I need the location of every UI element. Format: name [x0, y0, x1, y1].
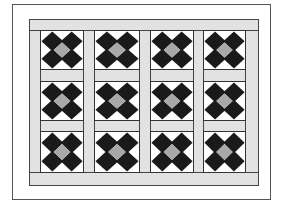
quilt-block	[94, 81, 140, 121]
quilt-block	[203, 81, 246, 121]
quilt-block	[150, 131, 194, 173]
quilt-block	[40, 30, 84, 70]
quilt-block	[150, 30, 194, 70]
quilt-block	[40, 81, 84, 121]
quilt-block	[94, 30, 140, 70]
quilt-block	[150, 81, 194, 121]
quilt-block	[40, 131, 84, 173]
bottom-border	[29, 172, 259, 186]
quilt-block	[94, 131, 140, 173]
sash-vertical-5	[245, 30, 259, 173]
quilt-block	[203, 131, 246, 173]
quilt-block	[203, 30, 246, 70]
